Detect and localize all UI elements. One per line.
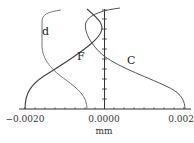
chart: d F C −0.0020 0.0000 0.0020 mm xyxy=(0,0,194,143)
x-tick-right: 0.0020 xyxy=(168,114,194,124)
label-d: d xyxy=(42,25,49,38)
curve-f xyxy=(25,9,102,109)
label-c: C xyxy=(127,54,135,67)
x-tick-mid: 0.0000 xyxy=(88,114,120,124)
label-f: F xyxy=(77,50,85,63)
x-tick-left: −0.0020 xyxy=(5,114,44,124)
x-axis-label: mm xyxy=(95,126,113,136)
